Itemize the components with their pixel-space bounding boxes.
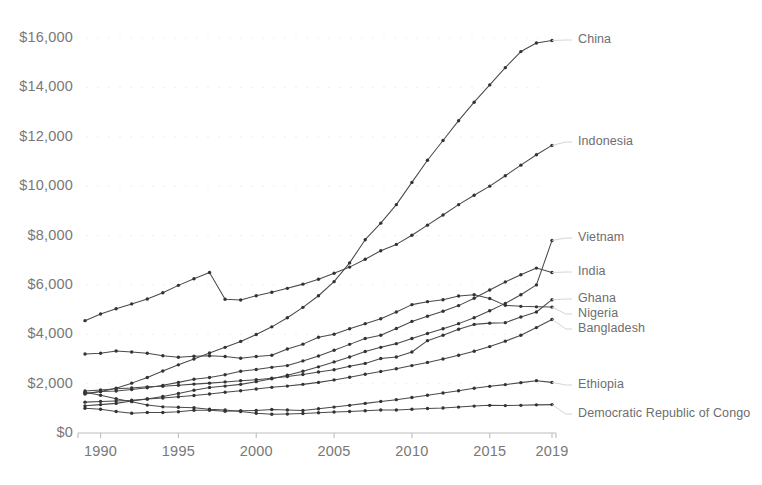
data-point-marker: [364, 337, 367, 340]
data-point-marker: [332, 272, 335, 275]
data-point-marker: [130, 412, 133, 415]
data-point-marker: [286, 408, 289, 411]
data-point-marker: [504, 304, 507, 307]
data-point-marker: [441, 139, 444, 142]
data-point-marker: [472, 323, 475, 326]
data-point-marker: [426, 315, 429, 318]
data-point-marker: [504, 174, 507, 177]
data-point-marker: [208, 392, 211, 395]
y-axis-tick-label: $12,000: [0, 128, 73, 144]
data-point-marker: [130, 386, 133, 389]
data-point-marker: [177, 395, 180, 398]
data-point-marker: [286, 412, 289, 415]
data-point-marker: [535, 266, 538, 269]
data-point-marker: [208, 354, 211, 357]
line-chart: $16,000$14,000$12,000$10,000$8,000$6,000…: [0, 0, 762, 485]
data-point-marker: [208, 271, 211, 274]
data-point-marker: [488, 297, 491, 300]
label-leader-line: [552, 272, 572, 273]
data-point-marker: [535, 305, 538, 308]
data-point-marker: [114, 307, 117, 310]
data-point-marker: [255, 387, 258, 390]
y-axis-tick-label: $8,000: [0, 227, 73, 243]
data-point-marker: [504, 280, 507, 283]
x-axis-tick-label: 2010: [372, 443, 452, 459]
data-point-marker: [364, 409, 367, 412]
data-point-marker: [239, 410, 242, 413]
series-label-democratic-republic-of-congo: Democratic Republic of Congo: [578, 406, 750, 420]
data-point-marker: [348, 365, 351, 368]
data-point-marker: [301, 409, 304, 412]
data-point-marker: [146, 376, 149, 379]
series-line: [85, 40, 552, 394]
data-point-marker: [99, 312, 102, 315]
data-point-marker: [426, 159, 429, 162]
data-point-marker: [223, 380, 226, 383]
data-point-marker: [488, 345, 491, 348]
data-point-marker: [395, 398, 398, 401]
data-point-marker: [177, 410, 180, 413]
data-point-marker: [504, 66, 507, 69]
data-point-marker: [535, 310, 538, 313]
data-point-marker: [472, 100, 475, 103]
data-point-marker: [161, 405, 164, 408]
data-point-marker: [410, 364, 413, 367]
data-point-marker: [223, 346, 226, 349]
label-leader-line: [552, 405, 572, 414]
data-point-marker: [255, 412, 258, 415]
data-point-marker: [457, 322, 460, 325]
label-leader-line: [552, 238, 572, 240]
y-axis-tick-label: $6,000: [0, 276, 73, 292]
data-point-marker: [332, 410, 335, 413]
data-point-marker: [239, 370, 242, 373]
data-point-marker: [535, 379, 538, 382]
data-point-marker: [114, 397, 117, 400]
x-axis-tick-label: 2019: [512, 443, 592, 459]
y-axis-tick-label: $2,000: [0, 375, 73, 391]
data-point-marker: [410, 320, 413, 323]
label-leader-line: [552, 307, 572, 314]
data-point-marker: [472, 316, 475, 319]
series-ghana: [83, 298, 553, 393]
data-point-marker: [472, 194, 475, 197]
data-point-marker: [410, 303, 413, 306]
data-point-marker: [301, 383, 304, 386]
data-point-marker: [348, 355, 351, 358]
series-label-indonesia: Indonesia: [578, 134, 633, 148]
data-point-marker: [441, 334, 444, 337]
data-point-marker: [426, 223, 429, 226]
data-point-marker: [457, 304, 460, 307]
series-bangladesh: [83, 318, 553, 404]
x-axis-tick-label: 1995: [138, 443, 218, 459]
data-point-marker: [208, 408, 211, 411]
series-label-bangladesh: Bangladesh: [578, 321, 645, 335]
y-axis-tick-label: $4,000: [0, 325, 73, 341]
data-point-marker: [348, 376, 351, 379]
label-leader-line: [552, 382, 572, 385]
data-point-marker: [426, 300, 429, 303]
data-point-marker: [488, 288, 491, 291]
data-point-marker: [114, 349, 117, 352]
data-point-marker: [114, 410, 117, 413]
data-point-marker: [410, 337, 413, 340]
data-point-marker: [519, 293, 522, 296]
data-point-marker: [332, 280, 335, 283]
data-point-marker: [379, 334, 382, 337]
data-point-marker: [488, 184, 491, 187]
data-point-marker: [441, 327, 444, 330]
data-point-marker: [146, 297, 149, 300]
data-point-marker: [488, 309, 491, 312]
data-point-marker: [472, 404, 475, 407]
y-axis-tick-label: $16,000: [0, 29, 73, 45]
data-point-marker: [395, 367, 398, 370]
data-point-marker: [519, 404, 522, 407]
data-point-marker: [130, 381, 133, 384]
data-point-marker: [348, 327, 351, 330]
data-point-marker: [146, 411, 149, 414]
data-point-marker: [519, 381, 522, 384]
data-point-marker: [239, 357, 242, 360]
data-point-marker: [301, 412, 304, 415]
data-point-marker: [177, 356, 180, 359]
data-point-marker: [192, 406, 195, 409]
data-point-marker: [348, 343, 351, 346]
